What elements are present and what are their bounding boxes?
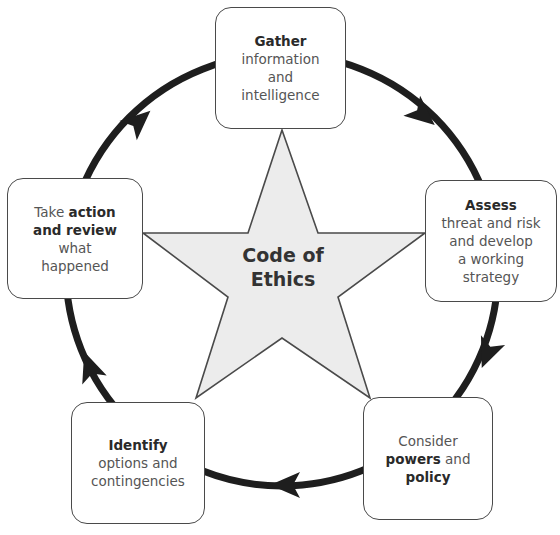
step-action-review: and review bbox=[33, 222, 117, 238]
step-consider-powers: powers bbox=[386, 451, 441, 467]
step-box-gather: Gather information and intelligence bbox=[215, 7, 346, 129]
step-gather-line-2: information bbox=[241, 50, 319, 68]
step-identify-title: Identify bbox=[108, 437, 167, 453]
step-assess-line-5: strategy bbox=[441, 268, 540, 286]
step-box-identify-text: Identify options and contingencies bbox=[91, 436, 185, 490]
step-box-identify: Identify options and contingencies bbox=[71, 402, 205, 524]
step-assess-line-2: threat and risk bbox=[441, 214, 540, 232]
step-identify-line-3: contingencies bbox=[91, 472, 185, 490]
step-gather-title: Gather bbox=[254, 33, 306, 49]
step-box-consider-text: Consider powers and policy bbox=[386, 432, 471, 486]
step-box-assess-text: Assess threat and risk and develop a wor… bbox=[441, 196, 540, 286]
step-assess-line-4: a working bbox=[441, 250, 540, 268]
step-consider-line-1: Consider bbox=[386, 432, 471, 450]
center-label-line-2: Ethics bbox=[213, 267, 353, 291]
step-action-action: action bbox=[69, 204, 116, 220]
arrow-identify-to-action-icon bbox=[72, 347, 107, 384]
step-action-take: Take bbox=[34, 204, 68, 220]
step-action-line-3: what bbox=[33, 239, 117, 257]
step-box-action: Take action and review what happened bbox=[7, 178, 143, 299]
center-label: Code of Ethics bbox=[213, 243, 353, 291]
step-assess-line-3: and develop bbox=[441, 232, 540, 250]
step-assess-title: Assess bbox=[465, 197, 517, 213]
step-box-assess: Assess threat and risk and develop a wor… bbox=[425, 180, 557, 302]
step-gather-line-3: and bbox=[241, 68, 319, 86]
step-action-line-4: happened bbox=[33, 257, 117, 275]
step-gather-line-4: intelligence bbox=[241, 86, 319, 104]
step-box-action-text: Take action and review what happened bbox=[33, 203, 117, 275]
step-consider-and: and bbox=[441, 451, 471, 467]
step-consider-policy: policy bbox=[406, 469, 451, 485]
step-identify-line-2: options and bbox=[91, 454, 185, 472]
center-label-line-1: Code of bbox=[213, 243, 353, 267]
step-box-gather-text: Gather information and intelligence bbox=[241, 32, 319, 104]
step-box-consider: Consider powers and policy bbox=[363, 397, 493, 520]
